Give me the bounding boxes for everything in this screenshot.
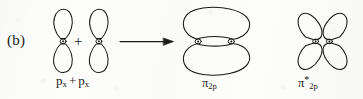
- p-orbital-left-upper-lobe: [54, 9, 73, 38]
- pi-antibonding-lobe-lower-left: [298, 43, 322, 69]
- molecular-orbital-figure: (b) + px+px π2p π*2p: [0, 0, 363, 99]
- panel-label: (b): [7, 32, 25, 49]
- p-orbital-left: [54, 9, 73, 72]
- reactant-right-subscript: x: [85, 79, 89, 89]
- pi-antibonding-caption: π*2p: [298, 75, 318, 91]
- reactants-caption: px+px: [56, 74, 89, 89]
- pi-bonding-nucleus-right-dot: [230, 40, 232, 42]
- plus-operator: +: [74, 34, 82, 49]
- p-orbital-left-lower-lobe: [54, 44, 73, 73]
- pi-bonding-subscript: 2p: [208, 81, 217, 91]
- pi-antibonding-nucleus-left-dot: [315, 40, 317, 42]
- pi-antibonding-orbital: [298, 13, 347, 69]
- pi-antibonding-nucleus-right-dot: [328, 40, 330, 42]
- reactants-caption-operator: +: [67, 73, 78, 88]
- pi-bonding-lower-lobe: [183, 43, 249, 75]
- p-orbital-right-nucleus-dot: [98, 40, 100, 42]
- p-orbital-right-lower-lobe: [89, 44, 108, 73]
- p-orbital-right: [89, 9, 108, 72]
- pi-bonding-upper-lobe: [183, 7, 249, 39]
- pi-antibonding-lobe-lower-right: [323, 43, 347, 69]
- pi-bonding-caption: π2p: [202, 75, 217, 91]
- reaction-arrow: [120, 38, 174, 45]
- pi-antibonding-lobe-upper-left: [298, 13, 322, 39]
- pi-bonding-nucleus-left-dot: [197, 40, 199, 42]
- pi-bonding-orbital: [183, 7, 249, 75]
- p-orbital-left-nucleus-dot: [62, 40, 64, 42]
- pi-antibonding-lobe-upper-right: [323, 13, 347, 39]
- p-orbital-right-upper-lobe: [90, 9, 109, 38]
- reaction-arrow-head: [164, 38, 174, 45]
- pi-antibonding-subscript: 2p: [309, 81, 318, 91]
